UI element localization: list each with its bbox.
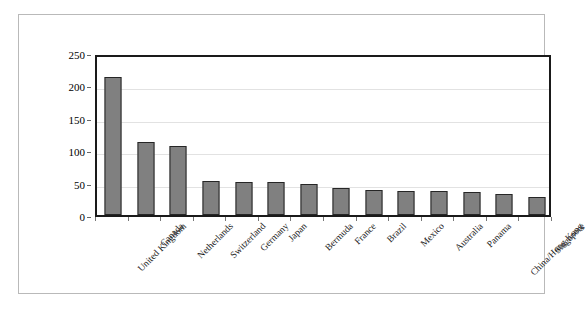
bar-slot xyxy=(162,57,195,215)
y-axis: 050100150200250 xyxy=(37,47,91,225)
x-axis-labels: United KingdomCanadaNetherlandsSwitzerla… xyxy=(95,221,565,307)
bar-slot xyxy=(455,57,488,215)
bar[interactable] xyxy=(333,188,350,215)
x-axis-label: France xyxy=(353,221,379,247)
y-tick-mark xyxy=(87,217,91,218)
y-tick-label: 250 xyxy=(69,49,86,61)
bar-slot xyxy=(390,57,423,215)
y-tick-label: 100 xyxy=(69,146,86,158)
bar-slot xyxy=(195,57,228,215)
plot-area xyxy=(95,55,551,217)
bar-slot xyxy=(520,57,553,215)
bar-slot xyxy=(423,57,456,215)
bar[interactable] xyxy=(496,194,513,215)
x-axis-label: Mexico xyxy=(419,221,447,249)
x-axis-label: Singapore xyxy=(552,221,587,256)
figure-frame: 050100150200250 United KingdomCanadaNeth… xyxy=(18,14,545,294)
bar[interactable] xyxy=(365,190,382,215)
y-tick-mark xyxy=(87,120,91,121)
bar[interactable] xyxy=(202,181,219,215)
y-tick-label: 0 xyxy=(80,211,86,223)
y-tick-mark xyxy=(87,87,91,88)
bar[interactable] xyxy=(235,182,252,215)
bar[interactable] xyxy=(105,77,122,215)
bar[interactable] xyxy=(300,184,317,215)
x-axis-label: Australia xyxy=(453,221,485,253)
bar-slot xyxy=(488,57,521,215)
x-axis-label: Brazil xyxy=(385,221,409,245)
y-tick-label: 150 xyxy=(69,114,86,126)
x-axis-label: Bermuda xyxy=(323,221,355,253)
x-axis-label: Japan xyxy=(286,221,309,244)
bar[interactable] xyxy=(268,182,285,215)
bar-slot xyxy=(358,57,391,215)
bar[interactable] xyxy=(137,142,154,215)
x-axis-label: Panama xyxy=(484,221,513,250)
bar[interactable] xyxy=(430,191,447,215)
bar-slot xyxy=(292,57,325,215)
y-tick-mark xyxy=(87,185,91,186)
bar[interactable] xyxy=(398,191,415,215)
bar-slot xyxy=(325,57,358,215)
y-tick-mark xyxy=(87,152,91,153)
y-tick-label: 50 xyxy=(74,179,85,191)
bar-slot xyxy=(130,57,163,215)
bars-layer xyxy=(97,57,549,215)
bar[interactable] xyxy=(528,197,545,215)
bar-slot xyxy=(227,57,260,215)
bar[interactable] xyxy=(170,146,187,215)
bar[interactable] xyxy=(463,192,480,215)
bar-slot xyxy=(97,57,130,215)
y-tick-mark xyxy=(87,55,91,56)
y-tick-label: 200 xyxy=(69,81,86,93)
bar-slot xyxy=(260,57,293,215)
